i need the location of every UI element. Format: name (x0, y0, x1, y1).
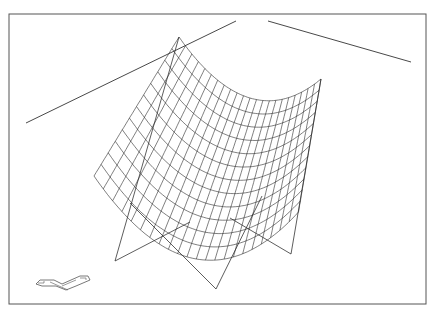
drawing-viewport[interactable] (0, 0, 434, 311)
reference-lines (26, 21, 411, 123)
wireframe-drawing (0, 0, 434, 311)
viewport-frame (9, 14, 426, 304)
ucs-icon (36, 276, 90, 290)
surface-mesh (94, 37, 321, 260)
support-frame (115, 37, 321, 289)
